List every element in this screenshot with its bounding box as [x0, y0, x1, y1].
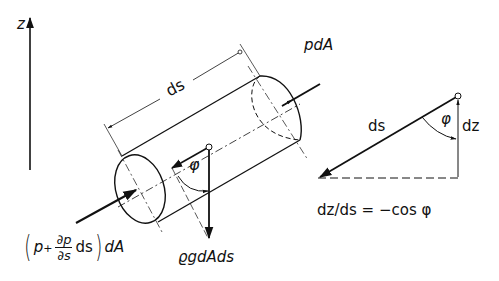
- z-axis-label: z: [17, 17, 25, 32]
- dz-ds-relation: dz/ds = −cos φ: [317, 203, 431, 218]
- weight-force-label: ϱgdAds: [178, 250, 234, 265]
- triangle-angle-phi: φ: [441, 112, 451, 127]
- fraction-denominator: ∂s: [57, 248, 71, 262]
- triangle-ds-label: ds: [368, 119, 385, 134]
- ds-term: ds: [75, 238, 92, 256]
- pressure-p: p: [34, 238, 44, 256]
- paren-open: (: [24, 232, 31, 262]
- cylinder-element: [76, 44, 320, 238]
- pressure-gradient-fraction: ∂p∂s: [55, 233, 72, 262]
- paren-close: ): [95, 232, 102, 262]
- plus-sign: +: [43, 242, 52, 255]
- geometry-triangle: [318, 93, 461, 178]
- fraction-numerator: ∂p: [55, 233, 72, 248]
- angle-phi-cylinder: φ: [189, 157, 200, 173]
- triangle-dz-label: dz: [462, 119, 479, 134]
- front-force-text: pdA: [304, 36, 333, 54]
- dA-term: dA: [105, 238, 125, 256]
- front-force-label: pdA: [304, 38, 333, 53]
- back-force-label: (p+∂p∂sds)dA: [22, 232, 124, 262]
